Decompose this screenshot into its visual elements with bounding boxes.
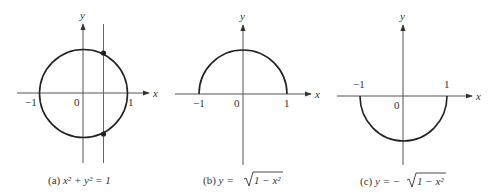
panel-c: y x −1 0 1 (c) y = − 1 − x² bbox=[337, 10, 481, 188]
intersection-point-upper bbox=[101, 50, 106, 55]
caption-radicand: 1 − x² bbox=[417, 175, 444, 187]
caption-b: (b) y = 1 − x² bbox=[203, 172, 283, 187]
caption-left: (b) y = bbox=[203, 174, 234, 187]
x-axis-label: x bbox=[152, 87, 158, 99]
caption-equation: x² + y² = 1 bbox=[62, 174, 111, 186]
panel-a: y x −1 0 1 (a) x² + y² = 1 bbox=[17, 9, 158, 187]
caption-prefix: (a) bbox=[48, 174, 63, 187]
panel-b: y x −1 0 1 (b) y = 1 − x² bbox=[175, 10, 320, 187]
caption-left: (c) y = − bbox=[360, 175, 400, 188]
figure: y x −1 0 1 (a) x² + y² = 1 y x −1 0 1 (b… bbox=[0, 0, 491, 196]
tick-label-neg1: −1 bbox=[25, 96, 37, 108]
tick-label-neg1: −1 bbox=[193, 97, 205, 109]
y-axis-label: y bbox=[239, 10, 245, 22]
caption-prefix: (b) bbox=[203, 174, 219, 187]
caption-radicand: 1 − x² bbox=[254, 174, 281, 186]
caption-prefix: (c) bbox=[360, 175, 375, 188]
tick-label-1: 1 bbox=[284, 97, 290, 109]
tick-label-neg1: −1 bbox=[353, 78, 365, 90]
tick-label-0: 0 bbox=[234, 97, 240, 109]
caption-equation-left: y = bbox=[218, 174, 234, 186]
x-axis-label: x bbox=[475, 90, 481, 102]
tick-label-0: 0 bbox=[394, 99, 400, 111]
x-axis-label: x bbox=[314, 88, 320, 100]
caption-a: (a) x² + y² = 1 bbox=[48, 174, 111, 187]
y-axis-label: y bbox=[399, 10, 405, 22]
tick-label-1: 1 bbox=[128, 96, 134, 108]
y-axis-label: y bbox=[79, 9, 85, 21]
caption-c: (c) y = − 1 − x² bbox=[360, 173, 446, 188]
intersection-point-lower bbox=[101, 131, 106, 136]
figure-canvas: y x −1 0 1 (a) x² + y² = 1 y x −1 0 1 (b… bbox=[0, 0, 491, 196]
tick-label-1: 1 bbox=[444, 78, 450, 90]
caption-equation-left: y = − bbox=[374, 175, 400, 187]
tick-label-0: 0 bbox=[74, 96, 80, 108]
